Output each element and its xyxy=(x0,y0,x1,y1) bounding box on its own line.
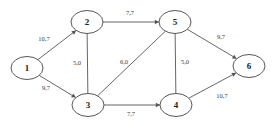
arrowheads-layer xyxy=(71,20,237,107)
edge-label-1-2: 10,7 xyxy=(38,35,50,42)
nodes-layer: 123456 xyxy=(11,11,265,117)
node-label-5: 5 xyxy=(173,17,178,27)
edge-labels-layer: 10,79,77,75,06,07,75,09,710,7 xyxy=(38,9,228,117)
node-label-4: 4 xyxy=(174,100,179,110)
node-label-1: 1 xyxy=(25,63,30,73)
edge-label-5-4: 5,0 xyxy=(181,58,189,65)
edge-5-4 xyxy=(175,34,176,94)
node-4[interactable]: 4 xyxy=(160,94,192,117)
edge-label-3-5: 6,0 xyxy=(120,58,128,65)
node-2[interactable]: 2 xyxy=(71,11,103,34)
node-label-3: 3 xyxy=(86,100,91,110)
node-1[interactable]: 1 xyxy=(11,57,43,80)
node-3[interactable]: 3 xyxy=(72,94,104,117)
graph-canvas: 123456 10,79,77,75,06,07,75,09,710,7 xyxy=(0,0,277,127)
edge-label-2-3: 5,0 xyxy=(73,59,81,66)
node-6[interactable]: 6 xyxy=(233,55,265,78)
node-label-6: 6 xyxy=(247,61,252,71)
edges-layer xyxy=(38,22,237,105)
arrowhead-icon-3-4 xyxy=(156,103,160,107)
node-label-2: 2 xyxy=(85,17,90,27)
network-graph-diagram: 123456 10,79,77,75,06,07,75,09,710,7 xyxy=(0,0,277,127)
edge-label-1-3: 9,7 xyxy=(42,84,51,91)
edge-label-3-4: 7,7 xyxy=(127,110,136,117)
arrowhead-icon-1-2 xyxy=(71,30,76,34)
edge-4-6 xyxy=(189,73,236,98)
arrowhead-icon-2-5 xyxy=(155,20,159,24)
edge-3-5 xyxy=(98,31,166,96)
node-5[interactable]: 5 xyxy=(159,11,191,34)
edge-label-4-6: 10,7 xyxy=(216,92,228,99)
edge-5-6 xyxy=(187,29,236,58)
edge-label-2-5: 7,7 xyxy=(126,9,135,16)
edge-label-5-6: 9,7 xyxy=(217,33,226,40)
edge-2-3 xyxy=(87,34,88,94)
